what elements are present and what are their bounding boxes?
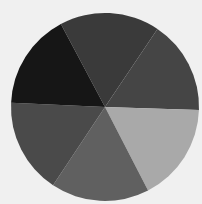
pie-chart [0, 0, 202, 204]
pie-slices [11, 13, 199, 201]
